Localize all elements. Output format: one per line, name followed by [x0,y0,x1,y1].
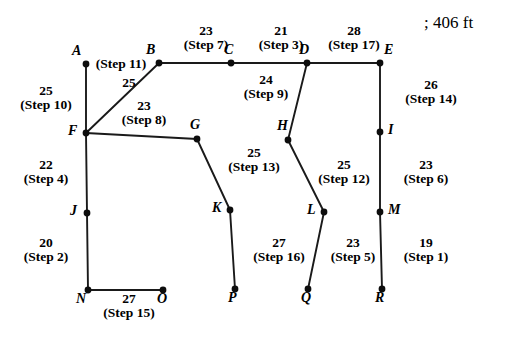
edge-weight-G-K: 25 [213,146,295,160]
edge-weight-F-J: 22 [8,158,84,172]
edge-weight-F-G: 23 [106,99,182,113]
edge-step-E-I: (Step 14) [390,92,472,106]
graph-edge-F-G [86,133,197,139]
edge-label-B-C: 23(Step 7) [168,24,244,53]
edge-step-F-J: (Step 4) [8,172,84,186]
edge-weight-I-M: 23 [388,158,464,172]
edge-step-A-F: (Step 10) [8,98,84,112]
edge-step-F-G: (Step 8) [106,113,182,127]
edge-step-K-P: (Step 16) [238,250,320,264]
edge-weight-D-E: 28 [313,24,395,38]
edge-weight-H-L: 25 [303,158,385,172]
node-label-J: J [70,204,77,219]
graph-node-D [304,60,311,67]
edge-step-N-O: (Step 15) [88,306,170,320]
node-label-I: I [388,123,393,138]
node-label-H: H [277,119,288,134]
node-label-B: B [146,43,155,58]
node-label-R: R [375,291,384,306]
node-label-Q: Q [301,291,311,306]
edge-weight-C-D: 21 [243,24,319,38]
node-label-F: F [68,124,77,139]
corner-note: ; 406 ft [424,14,473,32]
edge-label-C-D: 21(Step 3) [243,24,319,53]
edge-step-J-N: (Step 2) [8,250,84,264]
edge-step-G-K: (Step 13) [213,160,295,174]
graph-node-I [377,129,384,136]
node-label-M: M [388,203,400,218]
edge-label-F-J: 22(Step 4) [8,158,84,187]
edge-label-I-M: 23(Step 6) [388,158,464,187]
graph-edge-J-N [87,213,88,290]
edge-label-D-H: 24(Step 9) [228,73,304,102]
node-label-A: A [72,44,81,59]
edge-step-I-M: (Step 6) [388,172,464,186]
graph-node-F [83,130,90,137]
edge-weight-F-B: 25 [112,76,146,90]
edge-step-B-C: (Step 7) [168,38,244,52]
edge-label-L-Q: 23(Step 5) [315,236,391,265]
edge-step-F-B-step: (Step 11) [88,57,154,71]
graph-node-M [377,209,384,216]
node-label-N: N [76,292,86,307]
edge-step-M-R: (Step 1) [388,250,464,264]
graph-node-B [156,60,163,67]
edge-weight-B-C: 23 [168,24,244,38]
node-label-K: K [212,201,221,216]
graph-node-E [377,60,384,67]
edge-label-J-N: 20(Step 2) [8,236,84,265]
edge-label-G-K: 25(Step 13) [213,146,295,175]
graph-node-G [194,136,201,143]
graph-node-H [285,137,292,144]
edge-label-M-R: 19(Step 1) [388,236,464,265]
edge-label-K-P: 27(Step 16) [238,236,320,265]
edge-weight-K-P: 27 [238,236,320,250]
edge-label-D-E: 28(Step 17) [313,24,395,53]
edge-step-H-L: (Step 12) [303,172,385,186]
edge-label-A-F: 25(Step 10) [8,84,84,113]
edge-step-D-H: (Step 9) [228,87,304,101]
edge-weight-E-I: 26 [390,78,472,92]
edge-weight-A-F: 25 [8,84,84,98]
edge-weight-D-H: 24 [228,73,304,87]
edge-label-H-L: 25(Step 12) [303,158,385,187]
graph-node-L [321,209,328,216]
edge-step-C-D: (Step 3) [243,38,319,52]
edge-weight-L-Q: 23 [315,236,391,250]
edge-step-L-Q: (Step 5) [315,250,391,264]
edge-label-F-B-step: (Step 11) [88,57,154,71]
graph-edge-F-J [86,133,87,213]
edge-weight-J-N: 20 [8,236,84,250]
node-label-G: G [190,118,200,133]
edge-label-N-O: 27(Step 15) [88,292,170,321]
node-label-P: P [228,291,237,306]
edge-label-E-I: 26(Step 14) [390,78,472,107]
edge-weight-N-O: 27 [88,292,170,306]
figure-canvas: ABCDEFGHIJKLMNOPQR 25(Step 10)25(Step 11… [0,0,508,340]
edge-weight-M-R: 19 [388,236,464,250]
edge-step-D-E: (Step 17) [313,38,395,52]
graph-node-C [228,60,235,67]
node-label-L: L [307,203,316,218]
graph-edge-K-P [230,210,235,289]
edge-label-F-G: 23(Step 8) [106,99,182,128]
edge-label-F-B: 25 [112,76,146,90]
graph-node-J [84,210,91,217]
graph-node-K [227,207,234,214]
